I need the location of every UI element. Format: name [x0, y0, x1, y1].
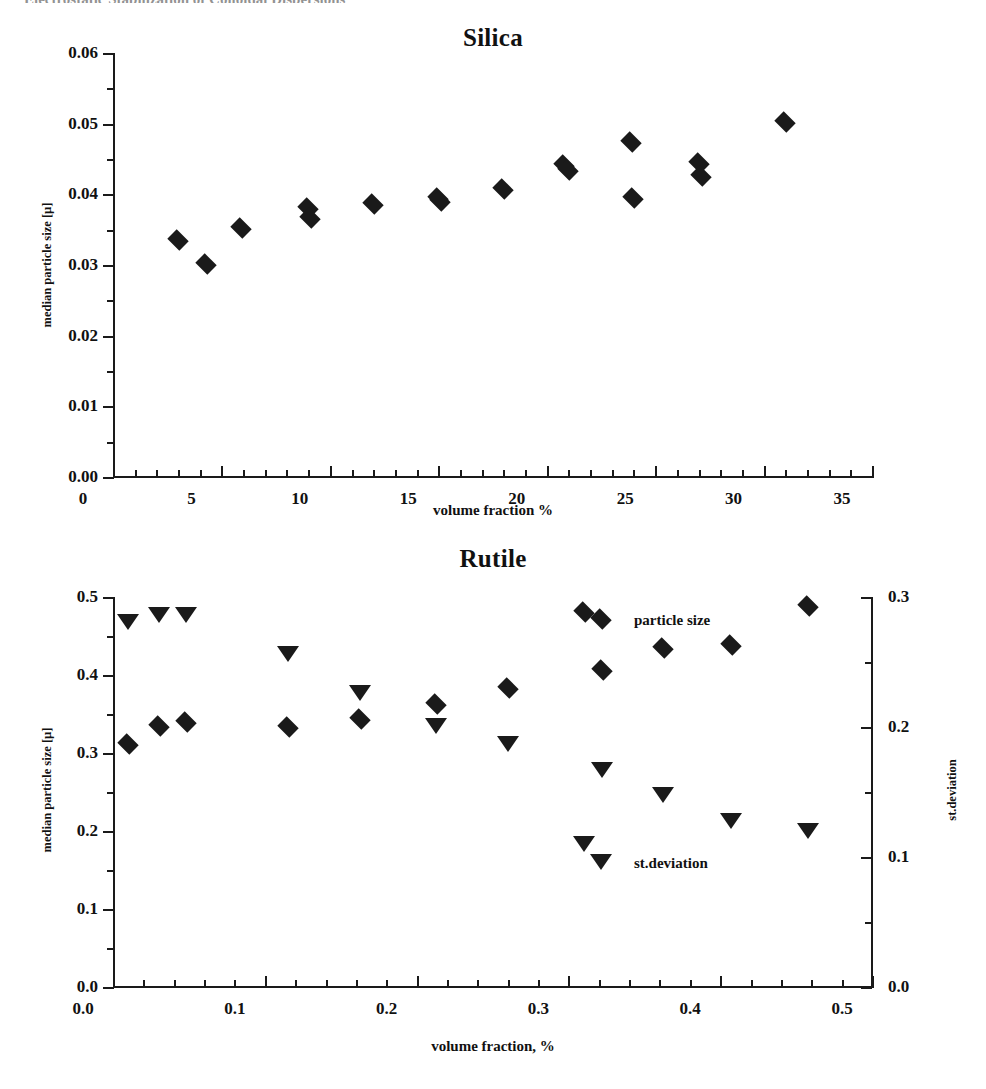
x-axis-tick-label: 10	[270, 489, 330, 509]
y-axis-right-tick-label: 0.3	[888, 587, 958, 607]
y-axis-tick-label: 0.05	[18, 114, 98, 134]
y-axis-right-tick	[861, 597, 872, 599]
x-axis-minor-tick	[690, 980, 692, 988]
x-axis-minor-tick	[811, 980, 813, 988]
x-axis-tick	[764, 466, 766, 478]
diamond-data-point	[175, 711, 196, 732]
y-axis-tick	[103, 336, 114, 338]
x-axis-minor-tick	[508, 980, 510, 988]
x-axis-minor-tick	[265, 470, 267, 478]
y-axis-tick-label: 0.03	[18, 255, 98, 275]
x-axis-tick-label: 0	[53, 489, 113, 509]
x-axis-tick	[330, 466, 332, 478]
x-axis-tick-label: 15	[378, 489, 438, 509]
y-axis-minor-tick	[107, 948, 114, 950]
diamond-data-point	[690, 165, 711, 186]
x-axis-tick-label: 25	[595, 489, 655, 509]
diamond-data-point	[493, 178, 514, 199]
x-axis-minor-tick	[243, 470, 245, 478]
y-axis-tick	[103, 265, 114, 267]
x-axis-line	[113, 986, 872, 988]
x-axis-tick	[438, 466, 440, 478]
y-axis-right-tick-label: 0.0	[888, 977, 958, 997]
y-axis-tick	[103, 597, 114, 599]
y-axis-minor-tick	[107, 792, 114, 794]
x-axis-minor-tick	[326, 980, 328, 988]
x-axis-minor-tick	[143, 980, 145, 988]
x-axis-minor-tick	[178, 470, 180, 478]
y-axis-tick-label: 0.2	[18, 821, 98, 841]
x-axis-minor-tick	[677, 470, 679, 478]
x-axis-tick-label: 5	[161, 489, 221, 509]
triangle-data-point	[652, 787, 674, 803]
diamond-data-point	[623, 187, 644, 208]
x-axis-tick-label: 0.1	[205, 999, 265, 1019]
rutile-chart-title: Rutile	[0, 545, 986, 573]
y-axis-tick-label: 0.5	[18, 587, 98, 607]
x-axis-tick	[221, 466, 223, 478]
x-axis-minor-tick	[829, 470, 831, 478]
y-axis-right-tick-label: 0.1	[888, 847, 958, 867]
triangle-data-point	[425, 718, 447, 734]
x-axis-minor-tick	[373, 470, 375, 478]
rutile-x-axis-title: volume fraction, %	[431, 1038, 555, 1055]
x-axis-minor-tick	[460, 470, 462, 478]
x-axis-tick	[417, 976, 419, 988]
triangle-data-point	[117, 614, 139, 630]
x-axis-tick	[113, 976, 115, 988]
diamond-data-point	[798, 596, 819, 617]
x-axis-tick-label: 30	[704, 489, 764, 509]
y-axis-minor-tick	[107, 714, 114, 716]
x-axis-tick-label: 0.4	[660, 999, 720, 1019]
y-axis-minor-tick	[107, 88, 114, 90]
triangle-data-point	[277, 646, 299, 662]
x-axis-minor-tick	[395, 470, 397, 478]
diamond-data-point	[426, 693, 447, 714]
x-axis-tick	[872, 466, 874, 478]
x-axis-minor-tick	[308, 470, 310, 478]
x-axis-minor-tick	[538, 980, 540, 988]
x-axis-minor-tick	[295, 980, 297, 988]
x-axis-minor-tick	[699, 470, 701, 478]
diamond-data-point	[621, 131, 642, 152]
silica-y-axis-title: median particle size [µ]	[40, 203, 55, 328]
x-axis-tick	[113, 466, 115, 478]
y-axis-tick-label: 0.04	[18, 184, 98, 204]
x-axis-minor-tick	[781, 980, 783, 988]
x-axis-tick	[655, 466, 657, 478]
y-axis-minor-tick	[107, 300, 114, 302]
y-axis-right-minor-tick	[865, 792, 872, 794]
rutile-y-axis-right-title: st.deviation	[945, 759, 960, 820]
x-axis-minor-tick	[156, 470, 158, 478]
x-axis-tick	[568, 976, 570, 988]
triangle-data-point	[720, 813, 742, 829]
x-axis-minor-tick	[742, 470, 744, 478]
y-axis-minor-tick	[107, 159, 114, 161]
diamond-data-point	[148, 715, 169, 736]
y-axis-tick-label: 0.3	[18, 743, 98, 763]
x-axis-minor-tick	[386, 980, 388, 988]
x-axis-minor-tick	[720, 470, 722, 478]
y-axis-minor-tick	[107, 442, 114, 444]
y-axis-right-minor-tick	[865, 662, 872, 664]
y-axis-tick-label: 0.06	[18, 43, 98, 63]
x-axis-minor-tick	[629, 980, 631, 988]
y-axis-tick	[103, 194, 114, 196]
x-axis-minor-tick	[612, 470, 614, 478]
diamond-data-point	[167, 230, 188, 251]
y-axis-minor-tick	[107, 371, 114, 373]
x-axis-minor-tick	[568, 470, 570, 478]
diamond-data-point	[363, 194, 384, 215]
x-axis-tick-label: 0.3	[508, 999, 568, 1019]
y-axis-tick	[103, 53, 114, 55]
x-axis-minor-tick	[503, 470, 505, 478]
y-axis-tick-label: 0.4	[18, 665, 98, 685]
diamond-data-point	[117, 733, 138, 754]
x-axis-tick-label: 0.5	[812, 999, 872, 1019]
x-axis-tick	[872, 976, 874, 988]
x-axis-minor-tick	[482, 470, 484, 478]
diamond-data-point	[720, 634, 741, 655]
diamond-data-point	[350, 709, 371, 730]
x-axis-tick-label: 0.0	[53, 999, 113, 1019]
diamond-data-point	[591, 660, 612, 681]
